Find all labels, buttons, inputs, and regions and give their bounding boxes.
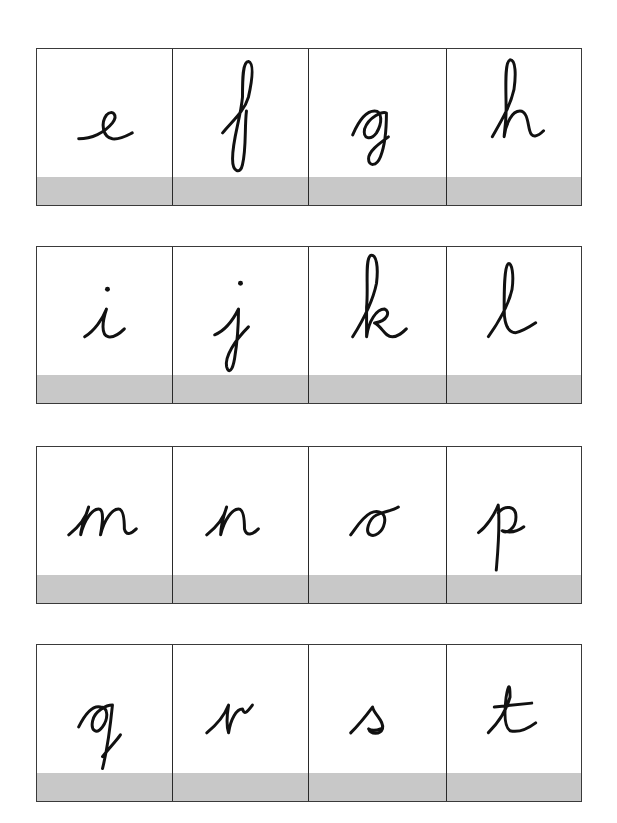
letter-row-2: i j k l — [36, 246, 582, 404]
gray-strip — [447, 575, 581, 603]
cursive-g-glyph — [309, 49, 446, 179]
letter-card-i: i — [37, 247, 173, 403]
letter-card-m: m — [37, 447, 173, 603]
gray-strip — [37, 773, 172, 801]
letter-card-f: f — [173, 49, 309, 205]
cursive-n-glyph — [173, 447, 308, 577]
gray-strip — [37, 375, 172, 403]
letter-card-q: q — [37, 645, 173, 801]
letter-card-n: n — [173, 447, 309, 603]
cursive-e-glyph — [37, 49, 172, 179]
gray-strip — [447, 773, 581, 801]
gray-strip — [37, 177, 172, 205]
cursive-m-glyph — [37, 447, 172, 577]
letter-card-s: s — [309, 645, 447, 801]
cursive-o-glyph — [309, 447, 446, 577]
letter-card-p: p — [447, 447, 581, 603]
cursive-i-glyph — [37, 247, 172, 377]
gray-strip — [173, 375, 308, 403]
letter-card-h: h — [447, 49, 581, 205]
letter-card-l: l — [447, 247, 581, 403]
letter-card-t: t — [447, 645, 581, 801]
letter-card-o: o — [309, 447, 447, 603]
gray-strip — [173, 773, 308, 801]
gray-strip — [447, 375, 581, 403]
letter-row-1: e f g h — [36, 48, 582, 206]
cursive-h-glyph — [447, 49, 581, 179]
cursive-r-glyph — [173, 645, 308, 775]
letter-card-j: j — [173, 247, 309, 403]
cursive-s-glyph — [309, 645, 446, 775]
letter-card-r: r — [173, 645, 309, 801]
gray-strip — [309, 375, 446, 403]
cursive-j-glyph — [173, 247, 308, 377]
cursive-p-glyph — [447, 447, 581, 577]
gray-strip — [173, 575, 308, 603]
letter-card-k: k — [309, 247, 447, 403]
gray-strip — [309, 773, 446, 801]
cursive-l-glyph — [447, 247, 581, 377]
letter-card-e: e — [37, 49, 173, 205]
gray-strip — [309, 177, 446, 205]
letter-row-3: m n o p — [36, 446, 582, 604]
cursive-q-glyph — [37, 645, 172, 775]
gray-strip — [173, 177, 308, 205]
cursive-t-glyph — [447, 645, 581, 775]
letter-card-g: g — [309, 49, 447, 205]
gray-strip — [37, 575, 172, 603]
gray-strip — [309, 575, 446, 603]
cursive-k-glyph — [309, 247, 446, 377]
gray-strip — [447, 177, 581, 205]
cursive-f-glyph — [173, 49, 308, 179]
letter-row-4: q r s t — [36, 644, 582, 802]
